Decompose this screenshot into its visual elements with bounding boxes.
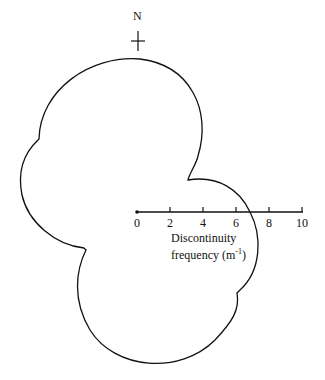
rose-diagram [0,0,325,380]
tick-label: 4 [193,216,213,231]
north-label: N [133,10,142,23]
axis-label: Discontinuity frequency (m-1) [171,232,246,262]
tick-label: 10 [292,216,312,231]
tick-label: 6 [226,216,246,231]
axis-label-line2: frequency (m-1) [171,245,246,262]
tick-label: 0 [127,216,147,231]
axis-label-line1: Discontinuity [171,232,246,245]
axis-origin [135,210,139,214]
tick-label: 8 [259,216,279,231]
frequency-outline [21,59,258,364]
tick-label: 2 [160,216,180,231]
